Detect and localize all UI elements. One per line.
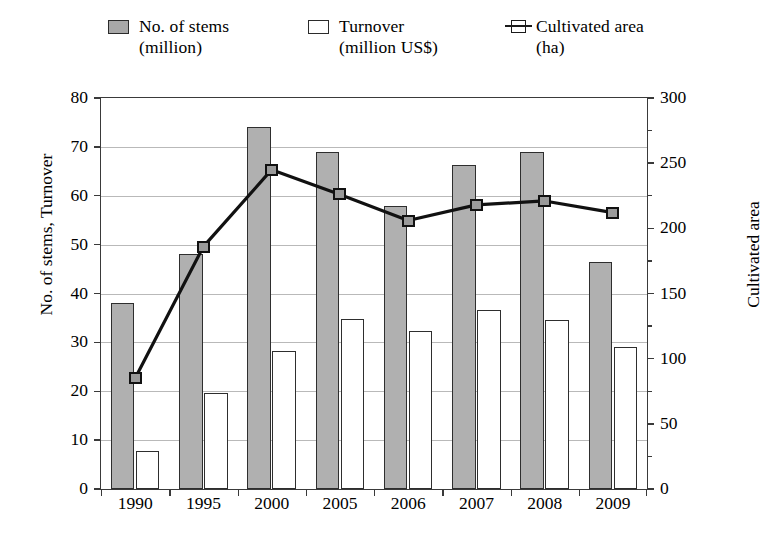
y-axis-left-tick (94, 146, 101, 147)
line-data-point-marker (402, 215, 415, 227)
y-axis-right-minor-tick (647, 456, 652, 457)
y-axis-left-tick-label: 50 (71, 236, 89, 254)
y-axis-left-tick-label: 40 (71, 285, 89, 303)
y-axis-right-tick (647, 293, 654, 294)
line-data-point-marker (197, 241, 210, 253)
y-axis-left-tick-label: 30 (71, 333, 89, 351)
y-axis-left-tick (94, 342, 101, 343)
legend-label-turnover-line2: (million US$) (339, 37, 438, 58)
line-data-point-marker (606, 207, 619, 219)
y-axis-right-tick-label: 250 (660, 154, 686, 172)
legend-label-turnover: Turnover (million US$) (339, 16, 438, 58)
y-axis-right-title: Cultivated area (743, 140, 764, 370)
y-axis-right-minor-tick (647, 130, 652, 131)
legend-label-turnover-line1: Turnover (339, 16, 404, 36)
line-data-point-marker (470, 199, 483, 211)
line-data-point-marker (129, 372, 142, 384)
y-axis-left-tick-label: 70 (71, 138, 89, 156)
y-axis-left-tick (94, 439, 101, 440)
line-marker-swatch-icon (511, 20, 526, 33)
y-axis-right-tick-label: 0 (660, 480, 669, 498)
y-axis-left-tick-label: 10 (71, 431, 89, 449)
y-axis-left-tick-label: 80 (71, 89, 89, 107)
y-axis-left-tick-label: 60 (71, 187, 89, 205)
y-axis-right-tick (647, 423, 654, 424)
cultivated-area-line (101, 98, 647, 489)
open-square-swatch-icon (308, 20, 329, 34)
y-axis-left-tick (94, 293, 101, 294)
y-axis-right-tick (647, 488, 654, 489)
y-axis-left-tick (94, 195, 101, 196)
y-axis-right-tick-label: 100 (660, 350, 686, 368)
y-axis-right-tick (647, 162, 654, 163)
y-axis-left-tick-label: 0 (79, 480, 88, 498)
x-axis-tick (646, 489, 647, 496)
y-axis-left-title: No. of stems, Turnover (36, 105, 57, 365)
y-axis-left-tick (94, 391, 101, 392)
y-axis-right-minor-tick (647, 391, 652, 392)
y-axis-left-tick-label: 20 (71, 382, 89, 400)
x-axis-tick-label: 2009 (573, 493, 653, 514)
y-axis-right-minor-tick (647, 260, 652, 261)
legend-item-cultivated-area: Cultivated area (ha) (508, 16, 708, 58)
y-axis-left-tick (94, 97, 101, 98)
y-axis-right-tick (647, 228, 654, 229)
y-axis-right-minor-tick (647, 325, 652, 326)
line-data-point-marker (538, 195, 551, 207)
legend-item-turnover: Turnover (million US$) (308, 16, 508, 58)
legend-label-stems: No. of stems (million) (139, 16, 229, 58)
y-axis-left-tick (94, 488, 101, 489)
legend-label-area-line2: (ha) (536, 37, 644, 58)
chart-root: No. of stems (million) Turnover (million… (0, 0, 774, 548)
line-data-point-marker (265, 164, 278, 176)
y-axis-right-tick (647, 97, 654, 98)
y-axis-right-tick-label: 300 (660, 89, 686, 107)
y-axis-right-tick (647, 358, 654, 359)
y-axis-right-tick-label: 50 (660, 415, 678, 433)
legend-label-area-line1: Cultivated area (536, 16, 644, 36)
legend-item-stems: No. of stems (million) (108, 16, 308, 58)
plot-area: 0102030405060708005010015020025030019901… (100, 97, 648, 490)
filled-square-swatch-icon (108, 20, 129, 34)
y-axis-left-tick (94, 244, 101, 245)
legend-label-stems-line1: No. of stems (139, 16, 229, 36)
legend-label-stems-line2: (million) (139, 37, 229, 58)
y-axis-right-tick-label: 200 (660, 219, 686, 237)
legend-label-cultivated-area: Cultivated area (ha) (536, 16, 644, 58)
chart-legend: No. of stems (million) Turnover (million… (108, 16, 708, 78)
y-axis-right-minor-tick (647, 195, 652, 196)
y-axis-right-tick-label: 150 (660, 285, 686, 303)
line-data-point-marker (333, 188, 346, 200)
